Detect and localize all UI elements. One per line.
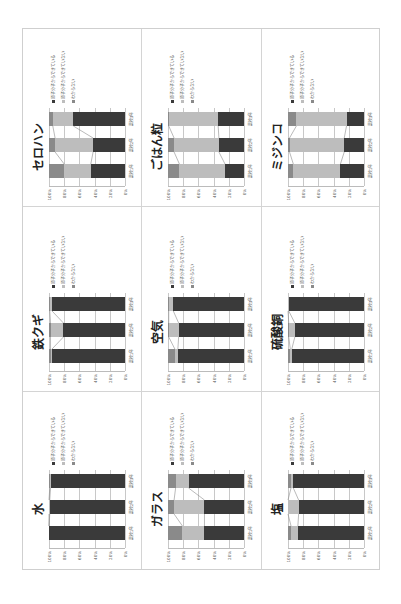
legend-swatch-icon (62, 100, 65, 103)
legend-label: 原子分子からできていない (61, 236, 66, 284)
legend-swatch-icon (52, 462, 55, 465)
legend-swatch-icon (191, 285, 194, 288)
y-tick-label: 20% (108, 551, 113, 568)
legend-swatch-icon (181, 462, 184, 465)
legend-swatch-icon (72, 462, 75, 465)
chart-panel-8: 塩 100%80%60%40%20%0%高校1年高校2年高校3年 原子分子からで… (262, 392, 379, 569)
plot-area: 100%80%60%40%20%0%高校1年高校2年高校3年 (49, 108, 125, 187)
y-tick-label: 100% (286, 551, 291, 568)
y-tick-label: 0% (362, 374, 367, 391)
legend-label: 原子分子からできていない (180, 236, 185, 284)
chart-legend: 原子分子からできている原子分子からできていないわからない (290, 392, 320, 465)
y-tick-label: 80% (301, 189, 306, 206)
y-tick-label: 40% (212, 189, 217, 206)
y-tick-label: 60% (196, 374, 201, 391)
x-category-label: 高校3年 (367, 291, 373, 317)
legend-item-no: 原子分子からできていない (180, 392, 185, 465)
y-tick-label: 80% (62, 189, 67, 206)
y-tick-label: 40% (332, 374, 337, 391)
x-category-label: 高校1年 (128, 520, 134, 546)
chart-panel-6: 水 100%80%60%40%20%0%高校1年高校2年高校3年 原子分子からで… (23, 392, 142, 569)
legend-swatch-icon (301, 462, 304, 465)
legend-swatch-icon (52, 285, 55, 288)
y-tick-label: 60% (316, 374, 321, 391)
x-category-label: 高校3年 (128, 291, 134, 317)
chart-panel-0: セロハン 100%80%60%40%20%0%高校1年高校2年高校3年 原子分子… (23, 29, 142, 207)
legend-swatch-icon (301, 285, 304, 288)
legend-label: 原子分子からできている (290, 240, 295, 284)
y-tick-label: 60% (316, 189, 321, 206)
stacked-bar-chart: ガラス 100%80%60%40%20%0%高校1年高校2年高校3年 原子分子か… (142, 392, 262, 569)
legend-swatch-icon (171, 462, 174, 465)
legend-label: わからない (190, 441, 195, 461)
y-tick-label: 60% (316, 551, 321, 568)
legend-label: 原子分子からできていない (300, 413, 305, 461)
legend-label: 原子分子からできていない (180, 51, 185, 99)
y-tick-label: 20% (227, 189, 232, 206)
legend-item-no: 原子分子からできていない (300, 392, 305, 465)
x-category-label: 高校1年 (367, 343, 373, 369)
plot-area: 100%80%60%40%20%0%高校1年高校2年高校3年 (49, 470, 125, 549)
y-tick-label: 20% (108, 374, 113, 391)
legend-item-unknown: わからない (190, 214, 195, 288)
legend-label: わからない (310, 441, 315, 461)
chart-panel-5: 硫酸銅 100%80%60%40%20%0%高校1年高校2年高校3年 原子分子か… (262, 207, 379, 392)
legend-item-yes: 原子分子からできている (290, 214, 295, 288)
y-tick-label: 100% (166, 551, 171, 568)
legend-swatch-icon (311, 285, 314, 288)
legend-item-no: 原子分子からできていない (61, 392, 66, 465)
legend-swatch-icon (171, 285, 174, 288)
x-category-label: 高校2年 (128, 132, 134, 158)
y-tick-label: 0% (242, 374, 247, 391)
y-tick-label: 100% (47, 551, 52, 568)
legend-swatch-icon (181, 285, 184, 288)
gridline (125, 108, 126, 186)
y-tick-label: 100% (166, 374, 171, 391)
series-lines (288, 293, 364, 371)
legend-item-yes: 原子分子からできている (170, 29, 175, 103)
y-tick-label: 40% (332, 189, 337, 206)
x-category-label: 高校3年 (367, 468, 373, 494)
chart-title: ガラス (148, 449, 165, 569)
y-tick-label: 40% (93, 374, 98, 391)
x-category-label: 高校3年 (247, 106, 253, 132)
legend-item-unknown: わからない (71, 392, 76, 465)
y-tick-label: 0% (123, 551, 128, 568)
stacked-bar-chart: 水 100%80%60%40%20%0%高校1年高校2年高校3年 原子分子からで… (23, 392, 142, 569)
y-tick-label: 100% (286, 374, 291, 391)
y-tick-label: 80% (301, 551, 306, 568)
chart-legend: 原子分子からできている原子分子からできていないわからない (170, 214, 200, 288)
y-tick-label: 0% (362, 189, 367, 206)
chart-title: 空気 (148, 272, 165, 392)
series-lines (288, 470, 364, 548)
plot-area: 100%80%60%40%20%0%高校1年高校2年高校3年 (49, 293, 125, 372)
legend-label: わからない (71, 79, 76, 99)
y-tick-label: 0% (242, 189, 247, 206)
series-lines (49, 108, 125, 186)
stacked-bar-chart: 鉄クギ 100%80%60%40%20%0%高校1年高校2年高校3年 原子分子か… (23, 207, 142, 392)
chart-title: ごはん粒 (148, 87, 165, 207)
y-tick-label: 100% (166, 189, 171, 206)
series-lines (288, 108, 364, 186)
series-lines (168, 108, 244, 186)
x-category-label: 高校3年 (128, 106, 134, 132)
chart-panel-3: 鉄クギ 100%80%60%40%20%0%高校1年高校2年高校3年 原子分子か… (23, 207, 142, 392)
chart-legend: 原子分子からできている原子分子からできていないわからない (170, 29, 200, 103)
y-tick-label: 100% (47, 374, 52, 391)
legend-swatch-icon (72, 285, 75, 288)
x-category-label: 高校3年 (247, 291, 253, 317)
x-category-label: 高校3年 (247, 468, 253, 494)
x-category-label: 高校1年 (128, 343, 134, 369)
gridline (125, 470, 126, 548)
chart-legend: 原子分子からできている原子分子からできていないわからない (170, 392, 200, 465)
legend-swatch-icon (311, 100, 314, 103)
chart-panel-7: ガラス 100%80%60%40%20%0%高校1年高校2年高校3年 原子分子か… (142, 392, 262, 569)
legend-label: 原子分子からできている (51, 55, 56, 99)
series-lines (168, 470, 244, 548)
legend-swatch-icon (291, 285, 294, 288)
y-tick-label: 100% (47, 189, 52, 206)
legend-item-unknown: わからない (190, 392, 195, 465)
plot-area: 100%80%60%40%20%0%高校1年高校2年高校3年 (168, 470, 244, 549)
stacked-bar-chart: 硫酸銅 100%80%60%40%20%0%高校1年高校2年高校3年 原子分子か… (262, 207, 379, 392)
chart-title: 硫酸銅 (268, 272, 285, 392)
